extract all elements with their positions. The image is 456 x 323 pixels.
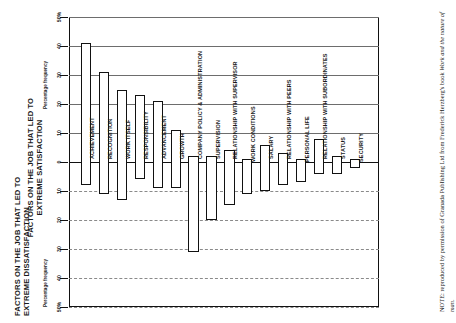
bar [296, 159, 306, 182]
gridline [69, 104, 379, 105]
axis-tick-label: 20 [56, 97, 62, 111]
gridline [69, 133, 379, 134]
note-suffix: . [448, 299, 455, 301]
axis-tick-label: 40 [56, 39, 62, 53]
source-note: NOTE: reproduced by permission of Granad… [418, 0, 448, 323]
source-note-text: NOTE: reproduced by permission of Granad… [428, 12, 456, 312]
bar-label: PERSONAL LIFE [304, 116, 310, 162]
bar-label: GROWTH [179, 133, 185, 159]
axis-tick-label: 20 [56, 213, 62, 227]
axis-tick-label: 30 [56, 68, 62, 82]
axis-tick-label: 10 [56, 184, 62, 198]
bar-label: RECOGNITION [107, 119, 113, 159]
gridline [69, 46, 379, 47]
bar-label: SALARY [268, 136, 274, 159]
bar-label: RELATIONSHIP WITH SUBORDINATES [322, 53, 328, 159]
gridline [69, 278, 379, 279]
note-prefix: NOTE: reproduced by permission of Granad… [438, 71, 445, 312]
bar-label: WORK ITSELF [125, 119, 131, 159]
chart-plot-area: 50%4030201001020304050% ACHIEVEMENTRECOG… [69, 17, 379, 307]
axis-tick-label: 50% [56, 10, 62, 24]
axis-tick-label: 10 [56, 126, 62, 140]
axis-tick-label: 40 [56, 271, 62, 285]
gridline [69, 307, 379, 308]
bar [188, 156, 198, 252]
bar-label: RESPONSIBILITY [143, 111, 149, 159]
gridline [69, 249, 379, 250]
bar-label: ACHIEVEMENT [89, 117, 95, 159]
bar-label: SUPERVISION [215, 120, 221, 159]
gridline [69, 17, 379, 18]
bar [242, 159, 252, 194]
title-satisfaction: FACTORS ON THE JOB THAT LED TO EXTREME S… [26, 85, 45, 250]
gridline [69, 220, 379, 221]
bar [81, 43, 91, 185]
bar-label: STATUS [340, 137, 346, 159]
bar-label: ADVANCEMENT [161, 115, 167, 159]
bar-label: RELATIONSHIP WITH SUPERVISOR [232, 61, 238, 159]
axis-tick-label: 50% [56, 300, 62, 314]
bar-label: RELATIONSHIP WITH PEERS [286, 79, 292, 159]
gridline [69, 75, 379, 76]
axis-tick-label: 0 [56, 155, 62, 169]
bar-label: SECURITY [358, 133, 364, 162]
axis-tick-label: 30 [56, 242, 62, 256]
bar-label: COMPANY POLICY & ADMINISTRATION [197, 51, 203, 159]
axis-label-bottom: Percentage frequency [43, 259, 48, 307]
axis-label-top: Percentage frequency [43, 61, 48, 109]
bar [206, 156, 216, 220]
chart-titles: FACTORS ON THE JOB THAT LED TO EXTREME D… [0, 0, 60, 323]
bar-label: WORK CONDITIONS [250, 106, 256, 162]
